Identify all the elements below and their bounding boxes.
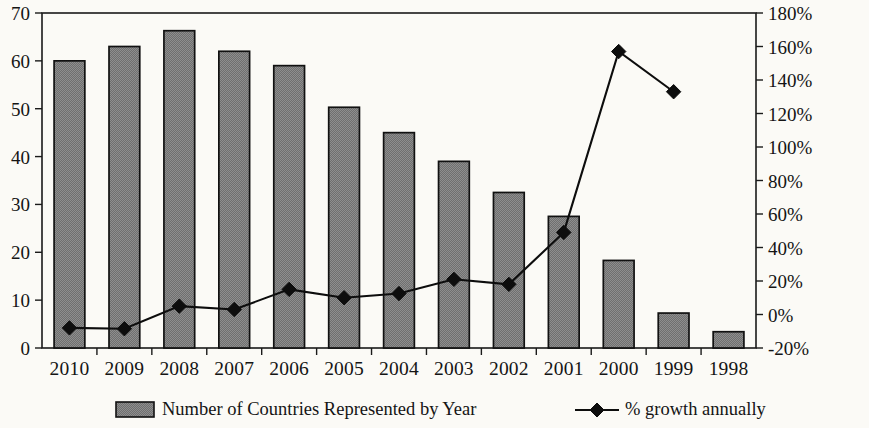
bar-2010: [54, 61, 85, 348]
right-tick-label: 180%: [768, 3, 813, 24]
bar-2006: [274, 66, 305, 348]
left-tick-label: 30: [11, 194, 30, 215]
right-tick-label: 0%: [768, 305, 794, 326]
bar-2002: [493, 192, 524, 348]
right-tick-label: 140%: [768, 70, 813, 91]
x-label-2003: 2003: [434, 358, 474, 379]
left-tick-label: 40: [11, 147, 30, 168]
left-tick-label: 70: [11, 3, 30, 24]
left-tick-label: 10: [11, 290, 30, 311]
left-tick-label: 0: [21, 338, 31, 359]
x-label-1998: 1998: [709, 358, 749, 379]
right-tick-label: 20%: [768, 271, 803, 292]
left-tick-label: 60: [11, 51, 30, 72]
chart-legend: Number of Countries Represented by Year%…: [116, 399, 767, 419]
bar-2003: [439, 161, 470, 348]
x-label-2000: 2000: [599, 358, 639, 379]
x-label-2002: 2002: [489, 358, 529, 379]
left-tick-label: 20: [11, 242, 30, 263]
bar-2009: [109, 47, 140, 349]
x-label-2009: 2009: [104, 358, 144, 379]
bar-2000: [603, 260, 634, 348]
right-tick-label: -20%: [768, 338, 809, 359]
right-tick-label: 120%: [768, 104, 813, 125]
x-label-1999: 1999: [654, 358, 694, 379]
x-label-2008: 2008: [159, 358, 199, 379]
x-label-2006: 2006: [269, 358, 309, 379]
legend-label-growth: % growth annually: [625, 399, 767, 419]
right-tick-label: 100%: [768, 137, 813, 158]
x-label-2007: 2007: [214, 358, 254, 379]
bar-2004: [384, 133, 415, 348]
right-tick-label: 40%: [768, 238, 803, 259]
x-label-2004: 2004: [379, 358, 419, 379]
legend-label-bars: Number of Countries Represented by Year: [162, 399, 476, 419]
left-tick-label: 50: [11, 99, 30, 120]
right-tick-label: 160%: [768, 37, 813, 58]
right-tick-label: 80%: [768, 171, 803, 192]
bar-2005: [329, 107, 360, 348]
x-label-2005: 2005: [324, 358, 364, 379]
bar-1999: [658, 313, 689, 348]
chart-container: 010203040506070 -20%0%20%40%60%80%100%12…: [0, 0, 869, 428]
right-tick-label: 60%: [768, 204, 803, 225]
x-label-2001: 2001: [544, 358, 584, 379]
legend-swatch-bars: [116, 402, 154, 417]
x-label-2010: 2010: [50, 358, 90, 379]
combo-chart: 010203040506070 -20%0%20%40%60%80%100%12…: [0, 0, 869, 428]
bar-1998: [713, 332, 744, 348]
